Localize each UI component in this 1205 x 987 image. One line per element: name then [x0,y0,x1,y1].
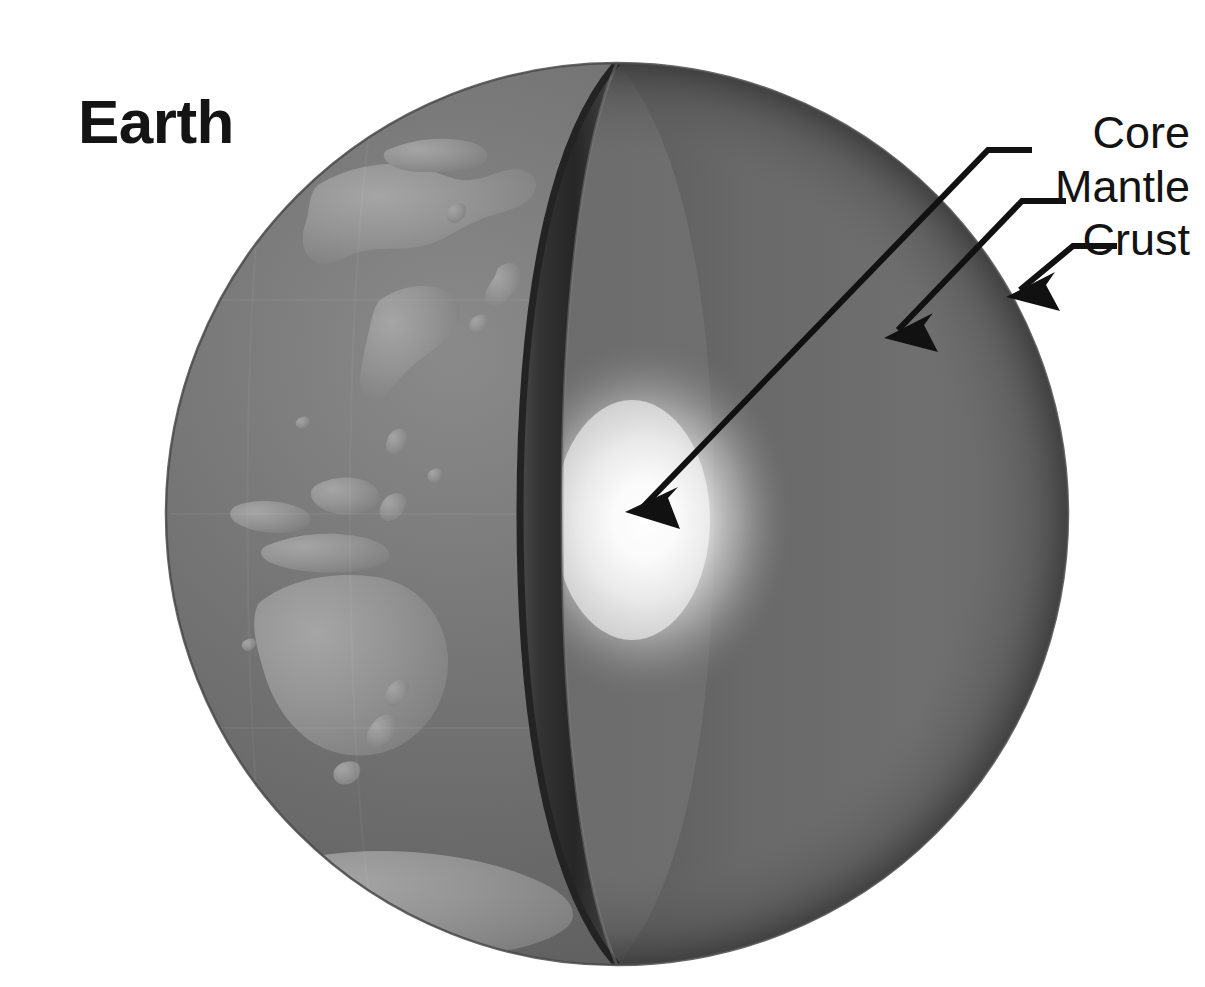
globe-grain-overlay [166,63,1068,965]
earth-cutaway-diagram: Earth Core Mantle Crust [0,0,1205,987]
label-crust: Crust [1082,214,1190,265]
page-title: Earth [78,87,234,156]
diagram-canvas: Earth Core Mantle Crust [0,0,1205,987]
label-core: Core [1092,107,1190,158]
callout-crust[interactable]: Crust [1006,214,1190,311]
label-mantle: Mantle [1055,161,1190,212]
